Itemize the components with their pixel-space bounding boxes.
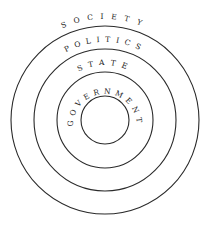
ring-society [11,26,199,214]
label-society: SOCIETY [60,12,151,30]
label-government: GOVERNMENT [66,87,145,127]
concentric-circles-diagram: SOCIETY POLITICS STATE GOVERNMENT [0,0,212,229]
label-politics: POLITICS [63,35,148,54]
label-state: STATE [76,58,135,73]
ring-government [81,96,129,144]
ring-politics [34,49,176,191]
